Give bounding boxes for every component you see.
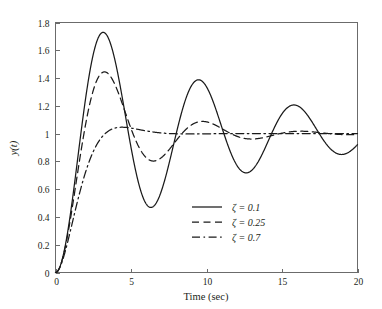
y-tick-label: 0 <box>45 269 50 279</box>
x-tick-label: 5 <box>129 277 134 287</box>
y-tick-label: 1 <box>45 130 50 140</box>
chart-canvas: 05101520 00.20.40.60.811.21.41.61.8 Time… <box>0 0 382 309</box>
x-axis-tick-labels: 05101520 <box>54 277 363 287</box>
y-axis-title: y(t) <box>8 140 20 156</box>
curve-series-0 <box>56 32 358 272</box>
curve-series-1 <box>56 72 358 273</box>
legend-label-0: ζ = 0.1 <box>232 202 260 214</box>
legend-label-1: ζ = 0.25 <box>232 217 265 229</box>
data-curves <box>56 32 358 272</box>
y-tick-label: 1.4 <box>38 74 50 84</box>
y-tick-label: 0.8 <box>38 157 50 167</box>
x-axis-ticks <box>57 269 359 273</box>
y-axis-ticks <box>56 24 60 274</box>
y-tick-label: 1.6 <box>38 46 50 56</box>
y-axis-tick-labels: 00.20.40.60.811.21.41.61.8 <box>38 19 50 279</box>
x-tick-label: 0 <box>54 277 59 287</box>
x-tick-label: 10 <box>203 277 213 287</box>
x-tick-label: 20 <box>354 277 364 287</box>
y-tick-label: 0.2 <box>38 241 50 251</box>
step-response-figure: 05101520 00.20.40.60.811.21.41.61.8 Time… <box>0 0 382 309</box>
y-tick-label: 0.4 <box>38 213 50 223</box>
x-tick-label: 15 <box>278 277 288 287</box>
y-tick-label: 0.6 <box>38 185 50 195</box>
y-tick-label: 1.2 <box>38 102 50 112</box>
curve-series-2 <box>56 127 358 272</box>
legend: ζ = 0.1ζ = 0.25ζ = 0.7 <box>192 202 265 244</box>
y-tick-label: 1.8 <box>38 19 50 29</box>
x-axis-title: Time (sec) <box>184 291 229 303</box>
plot-frame <box>56 23 358 273</box>
legend-label-2: ζ = 0.7 <box>232 232 261 244</box>
